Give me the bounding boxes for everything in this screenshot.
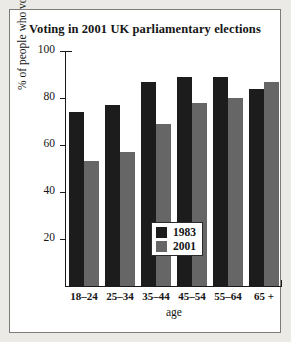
legend-swatch-1983 — [156, 227, 167, 238]
bar-group — [66, 51, 102, 286]
x-axis-label: age — [66, 306, 282, 318]
x-tick-label: 65 + — [246, 290, 282, 302]
y-tick-label: 60 — [44, 137, 56, 149]
bar-group — [102, 51, 138, 286]
chart-title: Voting in 2001 UK parliamentary election… — [10, 22, 280, 37]
x-axis-line — [65, 286, 282, 287]
legend-item-1983: 1983 — [156, 226, 196, 238]
bar-2001-45–54 — [192, 103, 207, 286]
bar-2001-18–24 — [84, 161, 99, 286]
legend-swatch-2001 — [156, 241, 167, 252]
x-axis-tick-labels: 18–2425–3435–4445–5455–6465 + — [66, 290, 282, 302]
y-tick-label: 40 — [44, 184, 56, 196]
bar-2001-65 + — [264, 82, 279, 286]
y-axis-label: % of people who voted — [16, 0, 28, 90]
bar-2001-55–64 — [228, 98, 243, 286]
chart-card: Voting in 2001 UK parliamentary election… — [9, 9, 281, 333]
y-tick-label: 100 — [38, 43, 55, 55]
x-tick-label: 18–24 — [66, 290, 102, 302]
x-tick-label: 35–44 — [138, 290, 174, 302]
legend-item-2001: 2001 — [156, 240, 196, 252]
bar-1983-55–64 — [213, 77, 228, 286]
x-tick-label: 25–34 — [102, 290, 138, 302]
legend-label: 2001 — [173, 240, 196, 252]
y-tick-label: 20 — [44, 231, 56, 243]
bar-1983-65 + — [249, 89, 264, 286]
bar-1983-18–24 — [69, 112, 84, 286]
bar-group — [246, 51, 282, 286]
legend-label: 1983 — [173, 226, 196, 238]
x-tick-label: 45–54 — [174, 290, 210, 302]
bar-2001-25–34 — [120, 152, 135, 286]
y-tick-label: 80 — [44, 90, 56, 102]
chart-figure: Voting in 2001 UK parliamentary election… — [0, 0, 291, 342]
bar-1983-25–34 — [105, 105, 120, 286]
bar-group — [210, 51, 246, 286]
chart-legend: 19832001 — [151, 222, 203, 256]
bar-2001-35–44 — [156, 124, 171, 286]
x-tick-label: 55–64 — [210, 290, 246, 302]
